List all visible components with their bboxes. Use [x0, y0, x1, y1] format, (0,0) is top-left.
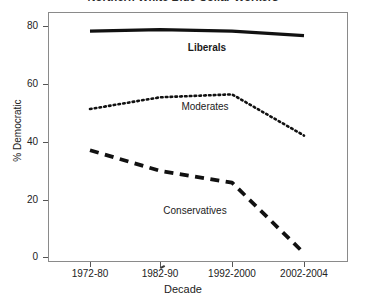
x-tick-mark-2 [232, 262, 233, 267]
y-tick-mark-20 [43, 200, 48, 201]
chart-title: Northern White Blue Collar Workers [0, 0, 366, 3]
y-tick-mark-40 [43, 142, 48, 143]
x-tick-label-1972-80: 1972-80 [50, 268, 130, 279]
x-tick-mark-0 [90, 262, 91, 267]
x-tick-mark-3 [304, 262, 305, 267]
series-label-conservatives: Conservatives [140, 205, 250, 216]
series-line-liberals [90, 30, 304, 36]
x-tick-label-1992-2000: 1992-2000 [192, 268, 272, 279]
y-tick-label-60: 60 [8, 78, 38, 89]
x-tick-label-1982-90: 1982-90 [120, 268, 200, 279]
y-tick-label-0: 0 [8, 251, 38, 262]
y-tick-mark-60 [43, 84, 48, 85]
y-tick-mark-0 [43, 257, 48, 258]
x-tick-label-2002-2004: 2002-2004 [264, 268, 344, 279]
y-tick-label-20: 20 [8, 194, 38, 205]
line-chart: Northern White Blue Collar Workers % Dem… [0, 0, 366, 304]
series-line-conservatives [90, 150, 304, 253]
x-axis-title: Decade [0, 283, 366, 295]
series-label-moderates: Moderates [150, 101, 260, 112]
y-axis-title: % Democratic [12, 86, 23, 176]
y-tick-label-40: 40 [8, 136, 38, 147]
y-tick-label-80: 80 [8, 20, 38, 31]
y-tick-mark-80 [43, 26, 48, 27]
series-label-liberals: Liberals [152, 42, 262, 53]
